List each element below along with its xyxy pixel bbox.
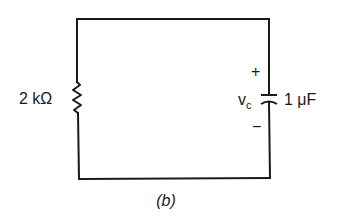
voltage-symbol: v [238, 91, 246, 108]
capacitor-label: 1 μF [284, 91, 317, 108]
figure-caption: (b) [156, 192, 176, 209]
rc-circuit-diagram: 2 kΩ + vc 1 μF − (b) [0, 0, 343, 223]
voltage-subscript: c [246, 99, 252, 111]
capacitor-minus-sign: − [252, 118, 261, 135]
resistor-label: 2 kΩ [19, 90, 52, 107]
left-wire-lower [78, 113, 79, 179]
capacitor-voltage-label: vc [238, 91, 252, 111]
right-wire-lower [269, 103, 270, 178]
bottom-wire [79, 178, 270, 179]
resistor-symbol [73, 82, 81, 113]
capacitor-plus-sign: + [251, 63, 260, 80]
